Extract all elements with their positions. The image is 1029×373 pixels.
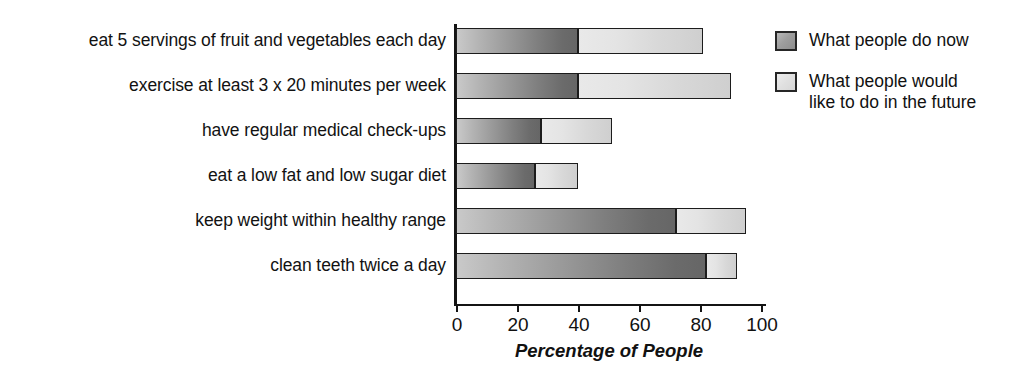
bar-segment-future-4 xyxy=(676,208,746,234)
x-tick-5 xyxy=(761,304,763,312)
bar-chart: eat 5 servings of fruit and vegetables e… xyxy=(0,0,1029,373)
bar-segment-now-5 xyxy=(456,253,706,279)
category-label-0: eat 5 servings of fruit and vegetables e… xyxy=(0,29,446,51)
x-axis-title: Percentage of People xyxy=(456,340,762,362)
x-axis-line xyxy=(454,304,766,306)
bar-segment-future-0 xyxy=(578,28,703,54)
bar-segment-future-1 xyxy=(578,73,731,99)
bar-segment-future-5 xyxy=(706,253,737,279)
x-tick-2 xyxy=(578,304,580,312)
category-label-5: clean teeth twice a day xyxy=(0,254,446,276)
legend-label-now: What people do now xyxy=(809,30,969,51)
x-tick-label-4: 80 xyxy=(690,314,711,336)
x-tick-label-0: 0 xyxy=(452,314,463,336)
category-label-1: exercise at least 3 x 20 minutes per wee… xyxy=(0,74,446,96)
x-tick-1 xyxy=(517,304,519,312)
bar-segment-now-3 xyxy=(456,163,535,189)
legend-item-future: What people would like to do in the futu… xyxy=(775,71,976,113)
bar-segment-now-4 xyxy=(456,208,676,234)
category-label-3: eat a low fat and low sugar diet xyxy=(0,164,446,186)
bar-segment-future-3 xyxy=(535,163,578,189)
bar-segment-now-1 xyxy=(456,73,578,99)
x-tick-label-1: 20 xyxy=(507,314,528,336)
x-tick-label-2: 40 xyxy=(568,314,589,336)
category-axis-labels: eat 5 servings of fruit and vegetables e… xyxy=(0,24,446,296)
x-tick-3 xyxy=(639,304,641,312)
bar-segment-future-2 xyxy=(541,118,611,144)
legend-swatch-future-icon xyxy=(775,72,797,92)
legend-swatch-now-icon xyxy=(775,31,797,51)
legend-item-now: What people do now xyxy=(775,30,969,51)
x-tick-label-5: 100 xyxy=(746,314,778,336)
category-label-4: keep weight within healthy range xyxy=(0,209,446,231)
category-label-2: have regular medical check-ups xyxy=(0,119,446,141)
plot-area: 0 20 40 60 80 100 xyxy=(456,24,766,296)
legend-label-future: What people would like to do in the futu… xyxy=(809,71,976,113)
x-tick-0 xyxy=(456,304,458,312)
bar-segment-now-0 xyxy=(456,28,578,54)
x-tick-label-3: 60 xyxy=(629,314,650,336)
bar-segment-now-2 xyxy=(456,118,541,144)
x-tick-4 xyxy=(700,304,702,312)
